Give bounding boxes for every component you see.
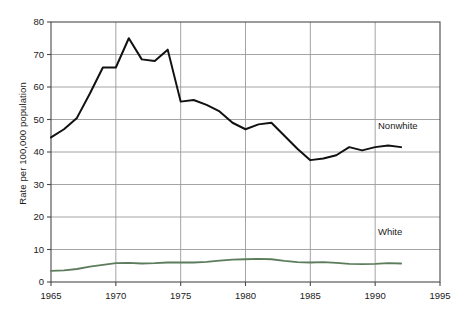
series-label-nonwhite: Nonwhite <box>378 120 418 131</box>
y-tick-70: 70 <box>18 49 44 60</box>
x-tick-1965: 1965 <box>31 290 71 301</box>
y-tick-20: 20 <box>18 211 44 222</box>
x-tick-1980: 1980 <box>226 290 266 301</box>
data-series <box>51 38 401 271</box>
y-tick-0: 0 <box>18 276 44 287</box>
x-tick-1975: 1975 <box>161 290 201 301</box>
x-tick-1970: 1970 <box>96 290 136 301</box>
x-tick-1985: 1985 <box>290 290 330 301</box>
line-chart: Rate per 100,000 population 010203040506… <box>0 0 466 319</box>
series-label-white: White <box>378 226 402 237</box>
y-tick-10: 10 <box>18 244 44 255</box>
y-tick-50: 50 <box>18 114 44 125</box>
x-tick-1990: 1990 <box>355 290 395 301</box>
x-tick-1995: 1995 <box>420 290 460 301</box>
gridlines <box>51 22 440 282</box>
y-tick-40: 40 <box>18 146 44 157</box>
y-tick-80: 80 <box>18 16 44 27</box>
chart-canvas <box>0 0 466 319</box>
y-tick-60: 60 <box>18 81 44 92</box>
tick-marks <box>47 22 440 286</box>
y-tick-30: 30 <box>18 179 44 190</box>
